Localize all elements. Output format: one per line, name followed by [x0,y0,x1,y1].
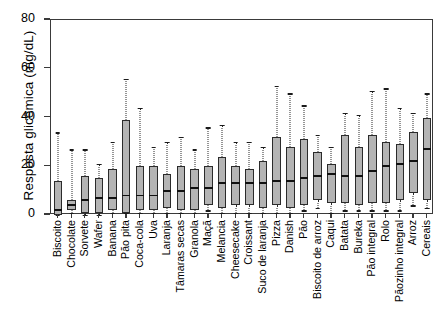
median-line [286,180,294,182]
whisker-upper [139,108,140,167]
median-line [423,148,431,150]
whisker-upper [221,125,222,157]
x-axis-label-text: Suco de laranja [256,220,268,294]
x-axis-label-text: Biscoito [51,220,63,257]
box-plot-item [382,20,390,215]
whisker-cap-upper [370,91,375,92]
x-axis-label-25: Pãozinho integral [399,138,411,220]
whisker-cap-upper [192,149,197,150]
x-axis-label-5: Pão pita [125,181,137,220]
whisker-upper [126,79,127,120]
y-tick-label: 40 [21,109,35,123]
x-axis-label-text: Maçã [201,220,213,246]
x-axis-label-text: Batata [338,220,350,251]
x-axis-label-1: Chocolate [71,172,83,220]
x-axis-label-12: Melancia [221,178,233,220]
x-axis-label-8: Laranja [166,185,178,220]
whisker-cap-upper [356,115,361,116]
whisker-upper [372,91,373,135]
whisker-cap-upper [315,135,320,136]
whisker-cap-upper [97,164,102,165]
whisker-upper [167,142,168,174]
whisker-cap-upper [343,113,348,114]
x-axis-label-text: Pão [297,220,309,239]
box-plot-item [300,20,308,215]
x-axis-label-3: Wafer [98,192,110,220]
whisker-cap-upper [425,93,430,94]
x-axis-label-text: Cheesecake [229,220,241,279]
x-axis-label-text: Laranja [160,220,172,255]
x-axis-label-text: Pizza [270,220,282,246]
whisker-upper [358,115,359,147]
y-tick-label: 20 [21,157,35,171]
x-axis-label-16: Pizza [276,194,288,220]
x-axis-label-text: Caqui [324,220,336,248]
median-line [341,175,349,177]
box-iqr [382,142,390,203]
x-axis-label-text: Chocolate [65,220,77,268]
x-axis-label-17: Danish [289,187,301,220]
x-axis-label-text: Cereais [420,220,432,257]
whisker-cap-upper [179,137,184,138]
whisker-cap-upper [56,132,61,133]
whisker-cap-upper [384,88,389,89]
x-axis-label-10: Granola [194,182,206,220]
x-axis-label-text: Granola [188,220,200,258]
x-axis-label-text: Bureka [352,220,364,254]
x-axis-label-text: Biscoito de arroz [311,220,323,299]
x-axis-label-2: Sorvete [84,183,96,220]
whisker-cap-upper [329,147,334,148]
x-axis-label-text: Rolo [379,220,391,242]
median-line [300,177,308,179]
whisker-cap-upper [165,142,170,143]
whisker-upper [153,147,154,167]
y-tick-label: 60 [21,60,35,74]
x-axis-label-text: Pãozinho integral [393,220,405,302]
whisker-upper [112,142,113,169]
whisker-cap-upper [411,113,416,114]
x-axis-label-22: Bureka [358,186,370,220]
x-axis-label-13: Cheesecake [235,161,247,220]
median-line [382,165,390,167]
x-axis-label-0: Biscoito [57,183,69,220]
whisker-cap-upper [397,108,402,109]
whisker-upper [249,142,250,169]
whisker-cap-upper [83,149,88,150]
whisker-cap-upper [124,79,129,80]
x-axis-label-26: Arroz [412,195,424,220]
whisker-upper [98,164,99,179]
x-axis-label-text: Coca-cola [133,220,145,268]
x-axis-label-text: Uva [147,220,159,239]
whisker-cap-upper [69,149,74,150]
x-axis-label-6: Coca-cola [139,172,151,220]
x-axis-label-27: Cereais [426,183,438,220]
whisker-upper [331,147,332,164]
x-axis-label-11: Maçã [207,194,219,220]
whisker-upper [208,127,209,166]
x-axis-label-text: Danish [283,220,295,253]
whisker-upper [276,86,277,137]
box-plot-item [286,20,294,215]
box-plot-figure: Resposta glicêmica (mg/dL) 020406080 Bis… [0,0,438,324]
x-axis-label-15: Suco de laranja [262,146,274,220]
whisker-upper [290,93,291,147]
whisker-upper [304,105,305,139]
y-tick-label: 0 [28,206,35,220]
x-axis-label-text: Sorvete [78,220,90,257]
x-axis-label-text: Melancia [215,220,227,262]
whisker-cap-upper [220,125,225,126]
x-axis-label-24: Rolo [385,198,397,220]
box-iqr [300,139,308,205]
box-plot-item [341,20,349,215]
x-axis-label-19: Biscoito de arroz [317,141,329,220]
x-axis-label-4: Banana [112,183,124,220]
whisker-cap-upper [302,105,307,106]
whisker-upper [57,132,58,181]
x-axis-label-text: Arroz [406,220,418,245]
whisker-cap-upper [288,93,293,94]
x-axis-label-20: Caqui [330,192,342,220]
whisker-upper [427,93,428,117]
whisker-upper [194,149,195,169]
whisker-upper [413,113,414,133]
x-axis-label-text: Banana [106,220,118,257]
